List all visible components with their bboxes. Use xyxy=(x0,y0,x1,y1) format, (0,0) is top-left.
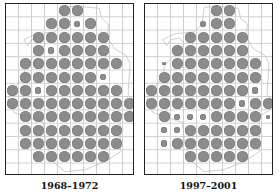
distribution-dot xyxy=(85,32,96,43)
distribution-dot xyxy=(211,72,222,83)
distribution-dot xyxy=(98,111,109,122)
distribution-dot xyxy=(59,18,70,29)
distribution-dot xyxy=(198,85,209,96)
distribution-dot xyxy=(85,85,96,96)
distribution-dot xyxy=(20,72,31,83)
distribution-dot xyxy=(111,111,122,122)
distribution-dot xyxy=(72,111,83,122)
distribution-dot xyxy=(198,125,209,136)
distribution-dot xyxy=(59,72,70,83)
distribution-dot xyxy=(185,125,196,136)
distribution-dot xyxy=(159,85,170,96)
distribution-dot xyxy=(124,98,135,109)
map-panel-1968-1972 xyxy=(5,3,134,175)
distribution-dot xyxy=(198,98,209,109)
distribution-dot xyxy=(59,98,70,109)
distribution-dot xyxy=(46,125,57,136)
distribution-dot xyxy=(211,138,222,149)
distribution-dot xyxy=(85,111,96,122)
distribution-dot xyxy=(33,151,44,162)
distribution-dot xyxy=(224,125,235,136)
distribution-dot xyxy=(224,18,235,29)
distribution-dot xyxy=(85,151,96,162)
distribution-dot xyxy=(198,72,209,83)
distribution-dot xyxy=(237,85,248,96)
distribution-dot xyxy=(266,115,270,119)
distribution-dot xyxy=(72,72,83,83)
distribution-dot xyxy=(46,138,57,149)
distribution-dot xyxy=(35,87,42,94)
distribution-dot xyxy=(98,98,109,109)
distribution-dot xyxy=(98,85,109,96)
distribution-dot xyxy=(211,151,222,162)
distribution-dot xyxy=(250,138,261,149)
distribution-dot xyxy=(46,111,57,122)
distribution-dot xyxy=(198,58,209,69)
distribution-dot xyxy=(185,45,196,56)
distribution-dot xyxy=(224,98,235,109)
distribution-dot xyxy=(250,125,261,136)
distribution-dot xyxy=(237,72,248,83)
distribution-dot xyxy=(224,138,235,149)
distribution-dot xyxy=(224,151,235,162)
distribution-dot xyxy=(46,98,57,109)
distribution-dot xyxy=(185,98,196,109)
distribution-dot xyxy=(172,98,183,109)
distribution-dot xyxy=(98,32,109,43)
distribution-dot xyxy=(59,85,70,96)
distribution-dot xyxy=(146,85,157,96)
distribution-dot xyxy=(46,18,57,29)
distribution-dot xyxy=(72,151,83,162)
distribution-dot xyxy=(172,138,183,149)
distribution-dot xyxy=(250,111,261,122)
distribution-dot xyxy=(172,45,183,56)
distribution-dot xyxy=(211,111,222,122)
distribution-dot xyxy=(46,58,57,69)
distribution-dot xyxy=(48,47,55,54)
distribution-dot xyxy=(85,45,96,56)
distribution-dot xyxy=(124,111,135,122)
distribution-dot xyxy=(237,151,248,162)
distribution-dot xyxy=(198,138,209,149)
distribution-dot xyxy=(72,138,83,149)
distribution-dot xyxy=(224,72,235,83)
distribution-dot xyxy=(211,5,222,16)
distribution-dot xyxy=(85,98,96,109)
distribution-dot xyxy=(237,125,248,136)
distribution-dot xyxy=(237,138,248,149)
distribution-dot xyxy=(33,72,44,83)
distribution-dot xyxy=(185,151,196,162)
distribution-dot xyxy=(250,98,261,109)
distribution-dot xyxy=(98,45,109,56)
distribution-dot xyxy=(239,100,246,107)
distribution-dot xyxy=(172,85,183,96)
distribution-dot xyxy=(224,111,235,122)
distribution-dot xyxy=(224,58,235,69)
distribution-dot xyxy=(85,125,96,136)
distribution-dot xyxy=(172,72,183,83)
distribution-dot xyxy=(59,125,70,136)
distribution-dot xyxy=(224,45,235,56)
distribution-dot xyxy=(211,58,222,69)
distribution-dot xyxy=(59,45,70,56)
distribution-dot xyxy=(20,98,31,109)
distribution-dot xyxy=(185,72,196,83)
distribution-dot xyxy=(46,32,57,43)
distribution-dot xyxy=(263,98,274,109)
distribution-dot xyxy=(33,138,44,149)
distribution-dot xyxy=(159,98,170,109)
distribution-dot xyxy=(85,58,96,69)
distribution-dot xyxy=(72,45,83,56)
distribution-dot xyxy=(185,138,196,149)
distribution-dot xyxy=(85,72,96,83)
distribution-dot xyxy=(33,45,44,56)
distribution-dot xyxy=(224,85,235,96)
distribution-dot xyxy=(111,58,122,69)
distribution-dot xyxy=(59,58,70,69)
distribution-dot xyxy=(98,151,109,162)
distribution-dot xyxy=(250,72,261,83)
map-panel-1997-2001 xyxy=(144,3,273,175)
distribution-dot xyxy=(46,151,57,162)
distribution-dot xyxy=(250,58,261,69)
distribution-dot xyxy=(111,125,122,136)
